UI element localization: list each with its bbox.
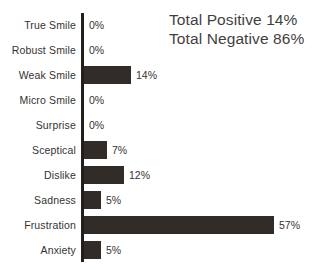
- category-label-surprise: Surprise: [0, 113, 76, 138]
- category-label-sceptical: Sceptical: [0, 138, 76, 163]
- bar-row: Weak Smile 14%: [0, 63, 327, 88]
- bar-value-micro-smile: 0%: [84, 91, 104, 109]
- category-label-sadness: Sadness: [0, 188, 76, 213]
- bar-wrap-sceptical: 7%: [84, 141, 107, 159]
- bar-row: Frustration 57%: [0, 213, 327, 238]
- bar-wrap-weak-smile: 14%: [84, 66, 131, 84]
- bar-value-frustration: 57%: [274, 216, 300, 234]
- bar-weak-smile: [84, 66, 131, 84]
- category-label-weak-smile: Weak Smile: [0, 63, 76, 88]
- bar-chart: Total Positive 14% Total Negative 86% Tr…: [0, 0, 327, 270]
- bar-value-surprise: 0%: [84, 116, 104, 134]
- category-label-dislike: Dislike: [0, 163, 76, 188]
- bar-anxiety: [84, 241, 101, 259]
- bar-wrap-anxiety: 5%: [84, 241, 101, 259]
- bar-row: Anxiety 5%: [0, 238, 327, 263]
- bar-wrap-frustration: 57%: [84, 216, 274, 234]
- bar-row: Sceptical 7%: [0, 138, 327, 163]
- category-label-anxiety: Anxiety: [0, 238, 76, 263]
- bar-value-dislike: 12%: [124, 166, 150, 184]
- bar-row: Surprise 0%: [0, 113, 327, 138]
- bar-dislike: [84, 166, 124, 184]
- bar-value-robust-smile: 0%: [84, 41, 104, 59]
- bar-wrap-dislike: 12%: [84, 166, 124, 184]
- bar-value-sceptical: 7%: [107, 141, 127, 159]
- category-label-robust-smile: Robust Smile: [0, 38, 76, 63]
- bar-row: Sadness 5%: [0, 188, 327, 213]
- category-label-frustration: Frustration: [0, 213, 76, 238]
- category-label-true-smile: True Smile: [0, 13, 76, 38]
- bar-value-sadness: 5%: [101, 191, 121, 209]
- category-label-micro-smile: Micro Smile: [0, 88, 76, 113]
- bar-sceptical: [84, 141, 107, 159]
- bar-frustration: [84, 216, 274, 234]
- bar-row: Micro Smile 0%: [0, 88, 327, 113]
- bar-wrap-sadness: 5%: [84, 191, 101, 209]
- bar-value-true-smile: 0%: [84, 16, 104, 34]
- bar-row: Robust Smile 0%: [0, 38, 327, 63]
- bar-value-anxiety: 5%: [101, 241, 121, 259]
- plot-area: True Smile 0% Robust Smile 0% Weak Smile…: [0, 13, 327, 263]
- bar-value-weak-smile: 14%: [131, 66, 157, 84]
- bar-sadness: [84, 191, 101, 209]
- bar-row: True Smile 0%: [0, 13, 327, 38]
- bar-row: Dislike 12%: [0, 163, 327, 188]
